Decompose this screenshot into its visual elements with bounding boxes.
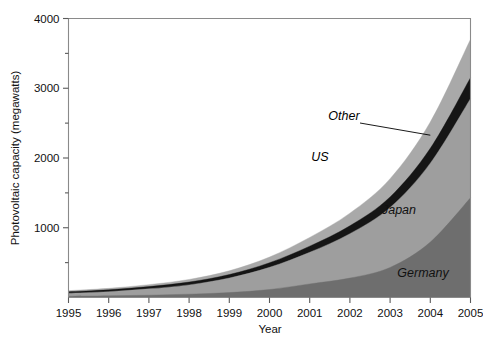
x-tick-label: 2003 — [377, 307, 403, 319]
x-tick-label: 1995 — [56, 307, 82, 319]
series-label-us: US — [311, 150, 329, 164]
x-tick-label: 1997 — [136, 307, 162, 319]
x-tick-label: 2004 — [418, 307, 444, 319]
chart-container: 1000200030004000199519961997199819992000… — [0, 0, 483, 337]
y-tick-label: 4000 — [34, 13, 60, 25]
chart-areas — [69, 39, 471, 297]
x-tick-label: 1996 — [96, 307, 122, 319]
series-label-other: Other — [328, 109, 360, 123]
y-tick-label: 1000 — [34, 222, 60, 234]
series-label-japan: Japan — [381, 203, 416, 217]
x-tick-label: 2002 — [337, 307, 363, 319]
x-tick-label: 2001 — [297, 307, 323, 319]
leader-line-other — [360, 123, 430, 135]
x-tick-label: 1999 — [217, 307, 243, 319]
y-tick-label: 2000 — [34, 152, 60, 164]
y-tick-label: 3000 — [34, 82, 60, 94]
x-tick-label: 1998 — [176, 307, 202, 319]
stacked-area-chart: 1000200030004000199519961997199819992000… — [0, 0, 483, 337]
y-axis-title: Photovoltaic capacity (megawatts) — [9, 71, 21, 246]
series-label-germany: Germany — [397, 266, 449, 280]
x-tick-label: 2005 — [458, 307, 483, 319]
x-tick-label: 2000 — [257, 307, 283, 319]
x-axis-title: Year — [258, 323, 281, 335]
